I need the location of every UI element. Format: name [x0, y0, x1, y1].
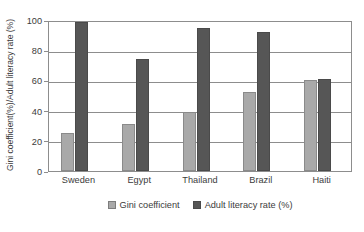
bar: [122, 124, 135, 171]
bar: [243, 92, 256, 171]
y-axis-tick-mark: [44, 172, 48, 173]
bar: [304, 80, 317, 171]
y-axis-title: Gini coefficient(%)/Adult literacy rate …: [3, 2, 17, 188]
bar-group: [110, 22, 171, 171]
bar: [136, 59, 149, 171]
y-axis-tick-mark: [44, 21, 48, 22]
chart-legend: Gini coefficientAdult literacy rate (%): [48, 198, 352, 212]
bar: [61, 133, 74, 171]
bar-group: [171, 22, 232, 171]
y-axis-tick-label: 20: [18, 137, 42, 147]
x-axis-tick-label: Egypt: [109, 175, 170, 186]
legend-label: Gini coefficient: [120, 200, 180, 211]
y-axis-tick-label: 60: [18, 76, 42, 86]
y-axis-tick-mark: [44, 51, 48, 52]
legend-swatch-icon: [108, 201, 116, 209]
x-axis-tick-label: Brazil: [230, 175, 291, 186]
grouped-bar-chart: Gini coefficient(%)/Adult literacy rate …: [0, 0, 364, 232]
legend-entry: Gini coefficient: [108, 200, 180, 211]
bar: [318, 79, 331, 171]
y-axis-tick-label: 40: [18, 107, 42, 117]
x-axis-tick-label: Haiti: [291, 175, 352, 186]
bar: [183, 112, 196, 171]
plot-area: [48, 21, 352, 172]
y-axis-tick-mark: [44, 141, 48, 142]
bar: [197, 28, 210, 171]
y-axis-tick-label: 0: [18, 167, 42, 177]
bars-layer: [49, 22, 351, 171]
legend-swatch-icon: [193, 201, 201, 209]
y-axis-tick-label: 100: [18, 16, 42, 26]
legend-entry: Adult literacy rate (%): [193, 200, 293, 211]
y-axis-tick-label: 80: [18, 46, 42, 56]
x-axis-tick-label: Sweden: [48, 175, 109, 186]
y-axis-tick-mark: [44, 111, 48, 112]
legend-label: Adult literacy rate (%): [205, 200, 293, 211]
bar-group: [49, 22, 110, 171]
bar: [75, 22, 88, 171]
bar-group: [231, 22, 292, 171]
y-axis-tick-mark: [44, 81, 48, 82]
bar-group: [292, 22, 353, 171]
bar: [257, 32, 270, 171]
x-axis-tick-label: Thailand: [170, 175, 231, 186]
